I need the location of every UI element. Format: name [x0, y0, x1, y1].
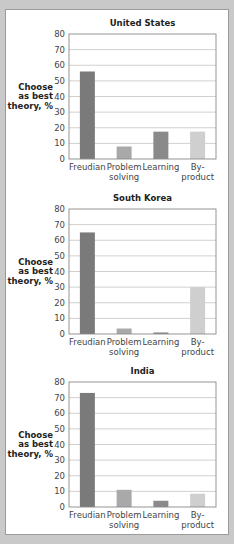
x-tick-label: Problem [107, 510, 142, 520]
y-tick-label: 70 [54, 45, 65, 55]
charts-svg: United States01020304050607080FreudianPr… [0, 0, 234, 544]
bar [80, 393, 95, 507]
x-tick-label: Learning [142, 162, 179, 172]
y-tick-label: 10 [54, 486, 65, 496]
x-tick-label: By- [191, 337, 205, 347]
y-tick-label: 30 [54, 107, 65, 117]
y-tick-label: 60 [54, 408, 65, 418]
chart-title: United States [110, 18, 176, 28]
x-tick-label: product [181, 520, 214, 530]
y-tick-label: 80 [54, 377, 65, 387]
x-tick-label: solving [109, 347, 139, 357]
y-tick-label: 0 [60, 329, 65, 339]
x-tick-label: Freudian [69, 337, 106, 347]
y-tick-label: 70 [54, 220, 65, 230]
bar [190, 287, 205, 334]
x-tick-label: By- [191, 510, 205, 520]
y-tick-label: 0 [60, 502, 65, 512]
bar [153, 501, 168, 507]
y-tick-label: 20 [54, 471, 65, 481]
y-tick-label: 40 [54, 267, 65, 277]
chart-title: South Korea [113, 193, 172, 203]
bar [117, 147, 132, 160]
y-tick-label: 0 [60, 154, 65, 164]
x-tick-label: Freudian [69, 510, 106, 520]
bar [80, 232, 95, 334]
bar [117, 490, 132, 507]
bar [117, 329, 132, 334]
bar [190, 132, 205, 159]
y-axis-label: as best [18, 439, 53, 449]
y-tick-label: 60 [54, 235, 65, 245]
chart-south-korea: South Korea01020304050607080FreudianProb… [8, 193, 217, 357]
chart-title: India [131, 366, 155, 376]
y-tick-label: 80 [54, 204, 65, 214]
y-axis-label: Choose [18, 257, 53, 267]
y-tick-label: 80 [54, 29, 65, 39]
x-tick-label: solving [109, 520, 139, 530]
chart-united-states: United States01020304050607080FreudianPr… [8, 18, 217, 182]
y-tick-label: 40 [54, 440, 65, 450]
y-tick-label: 20 [54, 298, 65, 308]
y-axis-label: as best [18, 91, 53, 101]
y-tick-label: 70 [54, 393, 65, 403]
chart-india: India01020304050607080FreudianProblemsol… [8, 366, 217, 530]
x-tick-label: Learning [142, 510, 179, 520]
bar [190, 494, 205, 507]
bar [153, 132, 168, 159]
x-tick-label: By- [191, 162, 205, 172]
bar [80, 72, 95, 160]
y-axis-label: Choose [18, 82, 53, 92]
x-tick-label: Problem [107, 162, 142, 172]
x-tick-label: Freudian [69, 162, 106, 172]
x-tick-label: product [181, 172, 214, 182]
y-tick-label: 10 [54, 313, 65, 323]
y-axis-label: theory, % [8, 449, 54, 459]
y-tick-label: 60 [54, 60, 65, 70]
y-tick-label: 50 [54, 424, 65, 434]
x-tick-label: solving [109, 172, 139, 182]
y-tick-label: 20 [54, 123, 65, 133]
y-axis-label: theory, % [8, 101, 54, 111]
y-axis-label: Choose [18, 430, 53, 440]
y-tick-label: 10 [54, 138, 65, 148]
x-tick-label: Learning [142, 337, 179, 347]
y-tick-label: 50 [54, 251, 65, 261]
y-axis-label: as best [18, 266, 53, 276]
x-tick-label: product [181, 347, 214, 357]
x-tick-label: Problem [107, 337, 142, 347]
y-tick-label: 50 [54, 76, 65, 86]
y-tick-label: 40 [54, 92, 65, 102]
y-tick-label: 30 [54, 282, 65, 292]
y-axis-label: theory, % [8, 276, 54, 286]
y-tick-label: 30 [54, 455, 65, 465]
